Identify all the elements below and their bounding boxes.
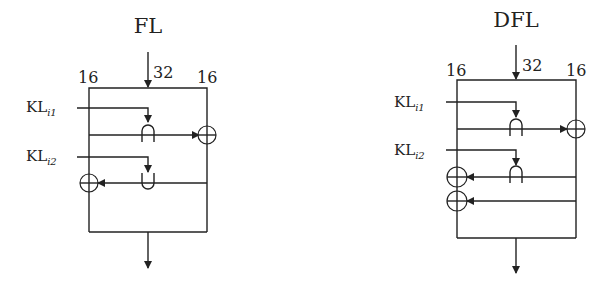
dfl-and-gate-1	[510, 119, 522, 136]
dfl-title: DFL	[493, 8, 538, 32]
diagram-canvas: FL 32 16 16 KLi1 KLi2	[0, 0, 606, 285]
fl-diagram: FL 32 16 16 KLi1 KLi2	[26, 14, 217, 268]
dfl-key1-label: KLi1	[394, 93, 425, 113]
fl-key1-label: KLi1	[26, 98, 57, 118]
fl-key2-label: KLi2	[26, 147, 57, 167]
dfl-xor-left-1	[447, 167, 467, 187]
fl-left-width: 16	[78, 68, 98, 87]
fl-key2-arrow	[77, 157, 148, 172]
dfl-diagram: DFL 32 16 16 KLi1 KLi2	[394, 8, 586, 273]
dfl-right-width: 16	[566, 61, 586, 80]
dfl-key2-label: KLi2	[394, 141, 425, 161]
fl-right-width: 16	[197, 68, 217, 87]
dfl-xor-left-2	[447, 191, 467, 211]
fl-or-gate	[142, 173, 154, 189]
fl-input-width: 32	[153, 63, 173, 82]
dfl-xor-right	[567, 120, 585, 138]
fl-key1-arrow	[77, 108, 148, 122]
fl-xor-left	[80, 174, 98, 192]
dfl-and-gate-2	[510, 166, 522, 183]
dfl-left-width: 16	[446, 61, 466, 80]
fl-xor-right	[198, 126, 216, 144]
dfl-input-width: 32	[522, 56, 542, 75]
fl-title: FL	[134, 14, 163, 38]
fl-and-gate	[142, 125, 154, 142]
